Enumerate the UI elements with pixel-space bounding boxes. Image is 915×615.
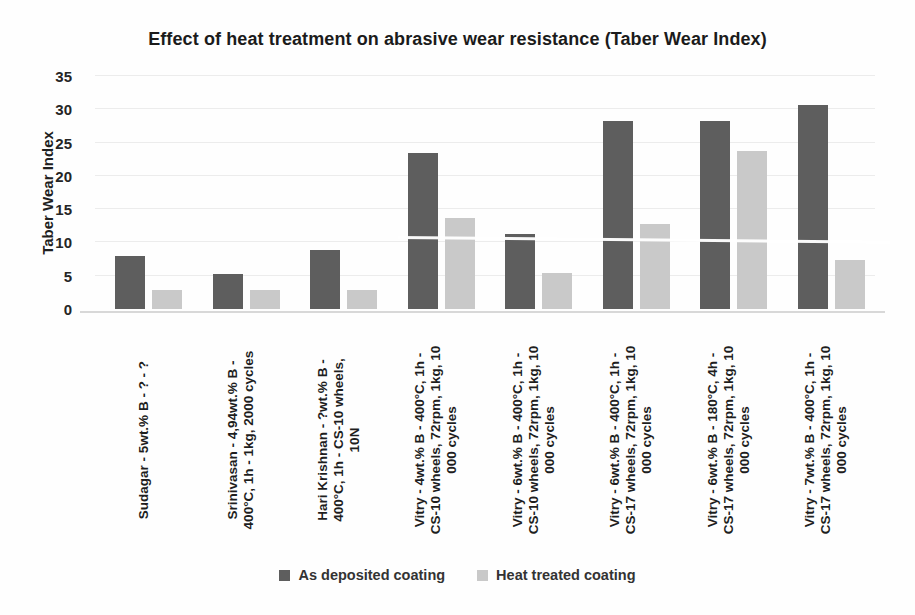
x-label-cell: Sudagar - 5wt.% B - ? - ? — [95, 316, 193, 564]
bar-heat-treated — [542, 273, 572, 309]
bar-as-deposited — [603, 121, 633, 309]
legend-label: Heat treated coating — [496, 567, 635, 583]
legend-item: Heat treated coating — [477, 567, 635, 583]
x-label-cell: Hari Krishnan - ?wt.% B - 400°C, 1h - CS… — [290, 316, 388, 564]
category-label: Sudagar - 5wt.% B - ? - ? — [136, 317, 152, 563]
bar-heat-treated — [152, 290, 182, 309]
bar-heat-treated — [250, 290, 280, 309]
x-label-cell: Srinivasan - 4,94wt.% B - 400°C, 1h - 1k… — [193, 316, 291, 564]
chart-title: Effect of heat treatment on abrasive wea… — [40, 29, 875, 50]
y-tick-label: 30 — [55, 102, 72, 117]
y-tick-label: 10 — [55, 235, 72, 250]
plot-area — [95, 76, 875, 309]
bar-group — [685, 76, 783, 309]
bar-as-deposited — [798, 105, 828, 309]
bar-as-deposited — [115, 256, 145, 309]
bar-group — [100, 76, 198, 309]
x-label-cell: Vitry - 6wt.% B - 180°C, 4h - CS-17 whee… — [680, 316, 778, 564]
category-label: Vitry - 6wt.% B - 400°C, 1h - CS-10 whee… — [509, 317, 558, 563]
bar-group — [393, 76, 491, 309]
bar-group — [490, 76, 588, 309]
y-tick-label: 5 — [64, 268, 72, 283]
category-label: Srinivasan - 4,94wt.% B - 400°C, 1h - 1k… — [225, 317, 257, 563]
category-label: Hari Krishnan - ?wt.% B - 400°C, 1h - CS… — [314, 317, 363, 563]
legend: As deposited coatingHeat treated coating — [0, 567, 915, 583]
bar-as-deposited — [213, 274, 243, 309]
y-tick-label: 25 — [55, 135, 72, 150]
x-label-cell: Vitry - 7wt.% B - 400°C, 1h - CS-17 whee… — [778, 316, 876, 564]
y-axis-ticks: 05101520253035 — [0, 76, 72, 309]
bar-groups — [95, 76, 875, 309]
x-label-cell: Vitry - 6wt.% B - 400°C, 1h - CS-17 whee… — [583, 316, 681, 564]
x-label-cell: Vitry - 4wt.% B - 400°C, 1h - CS-10 whee… — [388, 316, 486, 564]
x-axis-labels: Sudagar - 5wt.% B - ? - ?Srinivasan - 4,… — [95, 316, 875, 564]
bar-heat-treated — [835, 260, 865, 309]
bar-as-deposited — [505, 234, 535, 309]
bar-as-deposited — [310, 250, 340, 309]
bar-as-deposited — [700, 121, 730, 309]
y-tick-label: 0 — [64, 302, 72, 317]
bar-group — [783, 76, 881, 309]
legend-label: As deposited coating — [298, 567, 445, 583]
bar-group — [295, 76, 393, 309]
bar-heat-treated — [445, 218, 475, 309]
x-label-cell: Vitry - 6wt.% B - 400°C, 1h - CS-10 whee… — [485, 316, 583, 564]
bar-heat-treated — [737, 151, 767, 309]
y-tick-label: 15 — [55, 202, 72, 217]
bar-heat-treated — [347, 290, 377, 309]
category-label: Vitry - 4wt.% B - 400°C, 1h - CS-10 whee… — [412, 317, 461, 563]
category-label: Vitry - 7wt.% B - 400°C, 1h - CS-17 whee… — [802, 317, 851, 563]
x-axis-line — [80, 311, 885, 313]
legend-item: As deposited coating — [279, 567, 445, 583]
bar-group — [198, 76, 296, 309]
chart-figure: Effect of heat treatment on abrasive wea… — [0, 0, 915, 615]
category-label: Vitry - 6wt.% B - 180°C, 4h - CS-17 whee… — [704, 317, 753, 563]
legend-swatch-icon — [279, 570, 290, 581]
bar-group — [588, 76, 686, 309]
category-label: Vitry - 6wt.% B - 400°C, 1h - CS-17 whee… — [607, 317, 656, 563]
legend-swatch-icon — [477, 570, 488, 581]
bar-heat-treated — [640, 224, 670, 309]
y-tick-label: 20 — [55, 168, 72, 183]
bar-as-deposited — [408, 153, 438, 309]
y-tick-label: 35 — [55, 69, 72, 84]
